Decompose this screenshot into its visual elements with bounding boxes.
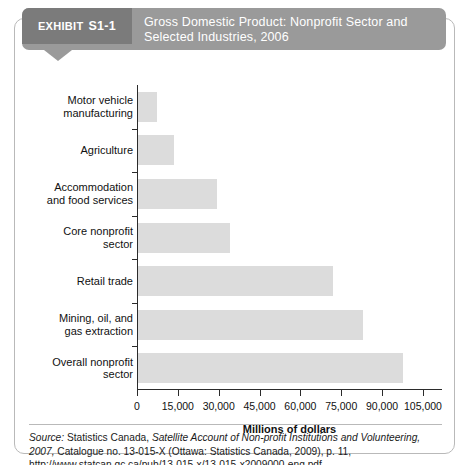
category-axis-labels: Motor vehiclemanufacturingAgricultureAcc… xyxy=(15,85,133,390)
exhibit-tag-word: EXHIBIT xyxy=(38,20,84,32)
source-text-post: Catalogue no. 13-015-X (Ottawa: Statisti… xyxy=(29,446,351,465)
bar xyxy=(138,92,157,122)
chart-figure: Motor vehiclemanufacturingAgricultureAcc… xyxy=(15,71,456,411)
exhibit-tag-number: S1-1 xyxy=(88,19,116,33)
x-axis-tick xyxy=(219,390,220,396)
x-axis-tick xyxy=(341,390,342,396)
source-text-pre: Statistics Canada, xyxy=(67,432,152,443)
x-axis-tick-label: 15,000 xyxy=(162,400,194,412)
source-note: Source: Statistics Canada, Satellite Acc… xyxy=(29,431,447,465)
x-axis-tick-label: 90,000 xyxy=(366,400,398,412)
y-axis-tick xyxy=(132,172,138,173)
exhibit-tag: EXHIBIT S1-1 xyxy=(22,8,132,44)
category-label: Retail trade xyxy=(21,275,133,288)
y-axis-tick xyxy=(132,346,138,347)
x-axis-tick xyxy=(382,390,383,396)
exhibit-header-notch-icon xyxy=(44,50,72,61)
x-axis-tick xyxy=(300,390,301,396)
bar-row xyxy=(138,353,403,383)
x-axis-tick-label: 0 xyxy=(134,400,140,412)
source-divider xyxy=(29,424,442,425)
exhibit-card: Motor vehiclemanufacturingAgricultureAcc… xyxy=(14,18,455,454)
bar xyxy=(138,353,403,383)
bar-row xyxy=(138,135,174,165)
x-axis-tick xyxy=(260,390,261,396)
x-axis-tick-label: 45,000 xyxy=(243,400,275,412)
bar-row xyxy=(138,223,230,253)
source-label: Source: xyxy=(29,432,67,443)
bar xyxy=(138,179,217,209)
x-axis-tick-label: 60,000 xyxy=(284,400,316,412)
bar-row xyxy=(138,310,363,340)
bar xyxy=(138,266,333,296)
exhibit-header-banner: EXHIBIT S1-1 Gross Domestic Product: Non… xyxy=(22,8,446,50)
category-label: Motor vehiclemanufacturing xyxy=(21,94,133,119)
exhibit-title: Gross Domestic Product: Nonprofit Sector… xyxy=(132,14,446,45)
y-axis-tick xyxy=(132,259,138,260)
y-axis-tick xyxy=(132,303,138,304)
x-axis-tick-label: 30,000 xyxy=(203,400,235,412)
x-axis-tick xyxy=(423,390,424,396)
category-label: Core nonprofitsector xyxy=(21,225,133,250)
x-axis-tick xyxy=(178,390,179,396)
bar xyxy=(138,310,363,340)
bar xyxy=(138,223,230,253)
bar-plot: 015,00030,00045,00060,00075,00090,000105… xyxy=(137,85,442,390)
y-axis-tick xyxy=(132,216,138,217)
category-label: Accommodationand food services xyxy=(21,181,133,206)
bar-row xyxy=(138,92,157,122)
category-label: Mining, oil, andgas extraction xyxy=(21,312,133,337)
x-axis-line xyxy=(137,389,442,390)
x-axis-tick-label: 105,000 xyxy=(404,400,442,412)
bar-row xyxy=(138,266,333,296)
bar-row xyxy=(138,179,217,209)
x-axis-tick-label: 75,000 xyxy=(325,400,357,412)
bar xyxy=(138,135,174,165)
x-axis-tick xyxy=(137,390,138,396)
category-label: Overall nonprofitsector xyxy=(21,356,133,381)
category-label: Agriculture xyxy=(21,144,133,157)
y-axis-tick xyxy=(132,129,138,130)
